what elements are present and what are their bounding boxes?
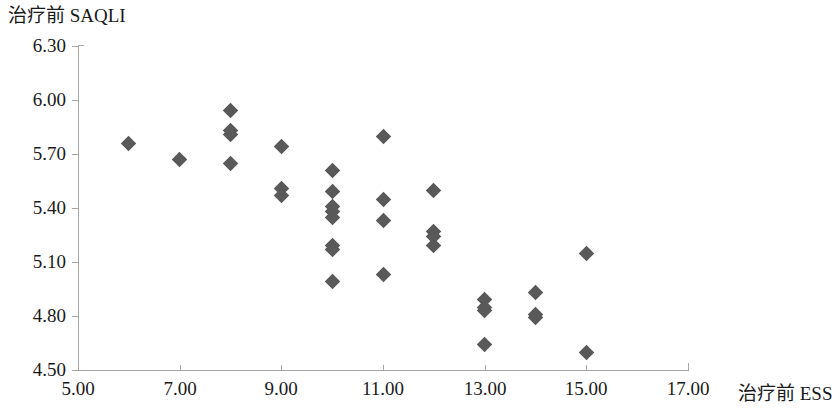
y-axis-tick-label: 6.00 [4,90,66,109]
x-axis-tick [688,365,689,371]
y-axis-tick-label: 5.70 [4,144,66,163]
x-axis-tick-label: 5.00 [38,378,118,400]
y-axis-tick-label: 5.10 [4,252,66,271]
x-axis-tick-label: 7.00 [140,378,220,400]
y-axis-tick-label: 4.80 [4,306,66,325]
x-axis-tick-label: 15.00 [546,378,626,400]
x-axis-tick-label: 13.00 [445,378,525,400]
y-axis-tick-label: 6.30 [4,36,66,55]
y-axis-tick-label: 5.40 [4,198,66,217]
plot-area [78,46,688,370]
y-axis-title: 治疗前 SAQLI [8,4,126,28]
x-axis-tick-label: 17.00 [648,378,728,400]
x-axis-title: 治疗前 ESS [738,382,833,406]
scatter-chart-figure: 治疗前 SAQLI 治疗前 ESS 4.504.805.105.405.706.… [0,0,840,412]
x-axis-tick-label: 11.00 [343,378,423,400]
x-axis-tick-label: 9.00 [241,378,321,400]
y-axis-tick-label: 4.50 [4,360,66,379]
